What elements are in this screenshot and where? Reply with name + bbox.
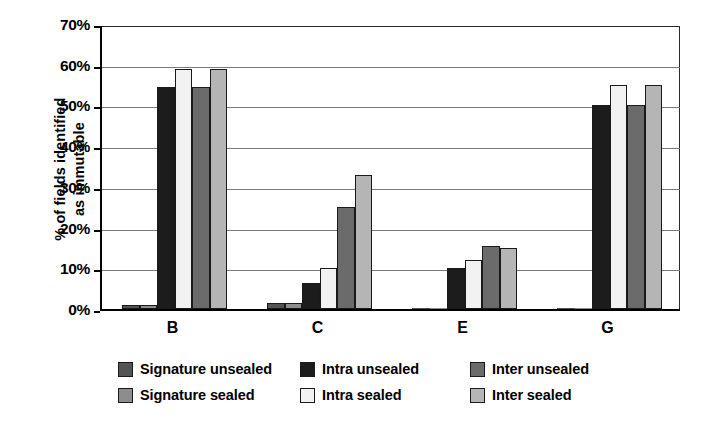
bar [575,308,593,309]
bar-chart-figure: % of fields identified as immutable 0%10… [0,0,701,431]
x-tick-label: E [423,319,503,337]
bar [192,87,210,309]
bar [122,305,140,309]
y-tick-mark [94,311,100,313]
x-tick-label: B [133,319,213,337]
bar [500,248,518,309]
bar [320,268,338,309]
bar [592,105,610,309]
bar [355,175,373,309]
y-tick-label: 10% [34,260,90,278]
bar [337,207,355,309]
bar [430,308,448,309]
plot-frame-right [679,26,680,309]
y-tick-label: 70% [34,16,90,34]
bar [302,283,320,309]
legend-swatch [470,362,485,377]
y-tick-label: 40% [34,138,90,156]
legend-label: Signature unsealed [140,361,272,377]
legend-item: Inter unsealed [470,361,655,377]
bar [267,303,285,309]
bar [175,69,193,309]
bar [447,268,465,309]
legend-swatch [118,388,133,403]
gridline [102,67,680,68]
legend-swatch [300,388,315,403]
bar [482,246,500,309]
legend-item: Signature unsealed [118,361,300,377]
bar [140,305,158,309]
legend-label: Intra unsealed [322,361,419,377]
y-tick-label: 20% [34,220,90,238]
x-tick-label: C [278,319,358,337]
bar [285,303,303,309]
legend-item: Intra sealed [300,387,470,403]
y-tick-label: 0% [34,301,90,319]
x-tick-label: G [568,319,648,337]
legend-item: Intra unsealed [300,361,470,377]
legend-label: Inter sealed [492,387,571,403]
y-tick-label: 60% [34,57,90,75]
plot-area [100,26,680,311]
legend-label: Signature sealed [140,387,254,403]
bar [610,85,628,309]
legend-swatch [118,362,133,377]
legend-swatch [470,388,485,403]
legend-item: Inter sealed [470,387,655,403]
y-tick-label: 30% [34,179,90,197]
legend-label: Intra sealed [322,387,401,403]
bar [645,85,663,309]
y-tick-label: 50% [34,97,90,115]
plot-frame-top [102,26,680,27]
chart-legend: Signature unsealedIntra unsealedInter un… [118,356,678,408]
bar [627,105,645,309]
legend-swatch [300,362,315,377]
bar [465,260,483,309]
legend-label: Inter unsealed [492,361,589,377]
bar [157,87,175,309]
legend-item: Signature sealed [118,387,300,403]
bar [412,308,430,309]
bar [557,308,575,309]
bar [210,69,228,309]
